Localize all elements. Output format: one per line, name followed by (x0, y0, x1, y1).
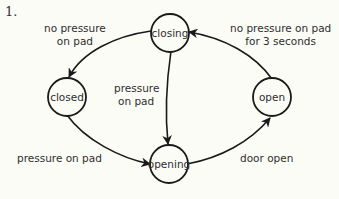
state-open: open (253, 78, 291, 116)
label-open-to-closing: no pressure on pad for 3 seconds (230, 22, 331, 48)
label-line: no pressure (44, 22, 106, 35)
label-closed-to-opening: pressure on pad (17, 152, 102, 165)
label-line: for 3 seconds (230, 35, 331, 48)
svg-text:opening: opening (148, 158, 190, 170)
label-line: no pressure on pad (230, 22, 331, 35)
label-line: door open (240, 152, 293, 165)
state-closing: closing (151, 14, 189, 52)
svg-text:open: open (259, 91, 285, 103)
label-line: pressure (114, 82, 159, 95)
svg-text:closing: closing (152, 27, 189, 39)
state-closed: closed (48, 78, 86, 116)
state-opening: opening (148, 145, 190, 183)
label-line: on pad (114, 95, 159, 108)
svg-text:closed: closed (50, 91, 84, 103)
label-line: pressure on pad (17, 152, 102, 165)
arrow-closing-to-opening (166, 51, 171, 144)
label-closing-to-closed: no pressure on pad (44, 22, 106, 48)
label-closing-to-opening: pressure on pad (114, 82, 159, 108)
label-opening-to-open: door open (240, 152, 293, 165)
label-line: on pad (44, 35, 106, 48)
